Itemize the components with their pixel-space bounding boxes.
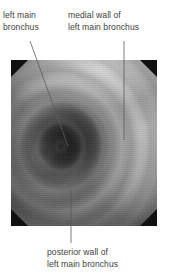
label-posterior-wall: posterior wall of left main bronchus [47,247,118,270]
corner-mask-bottom-left [11,209,28,226]
label-left-main-bronchus: left main bronchus [3,10,39,33]
label-left-main-bronchus-line1: left main [3,10,39,22]
label-medial-wall-line2: left main bronchus [68,22,139,34]
label-left-main-bronchus-line2: bronchus [3,22,39,34]
photo-vignette [11,60,157,226]
label-posterior-wall-line1: posterior wall of [47,247,118,259]
bronchoscopy-photograph [11,60,157,226]
corner-mask-top-left [11,60,28,77]
corner-mask-top-right [140,60,157,77]
label-medial-wall-line1: medial wall of [68,10,139,22]
label-medial-wall: medial wall of left main bronchus [68,10,139,33]
corner-mask-bottom-right [140,209,157,226]
figure-root: left main bronchus medial wall of left m… [0,0,170,277]
label-posterior-wall-line2: left main bronchus [47,259,118,271]
